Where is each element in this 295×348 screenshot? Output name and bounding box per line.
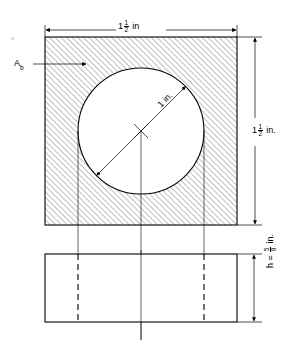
right-dimension-label: 112 in. <box>252 124 276 138</box>
right-dimension-fraction: 12 <box>258 124 264 138</box>
top-dimension-group <box>45 25 237 37</box>
area-label: Ab <box>14 59 24 70</box>
scan-artifact-dot <box>11 37 14 40</box>
front-view-group <box>45 250 237 340</box>
height-fraction: 58 <box>264 247 278 253</box>
engineering-drawing-figure: 112 in 112 in. 1 in. Ab h = 58 in. <box>0 0 295 348</box>
top-dimension-fraction: 12 <box>124 20 130 34</box>
height-dimension-group <box>237 254 262 322</box>
height-dimension-label: h = 58 in. <box>264 234 278 268</box>
drawing-canvas <box>0 0 295 348</box>
top-dimension-label: 112 in <box>118 20 139 34</box>
